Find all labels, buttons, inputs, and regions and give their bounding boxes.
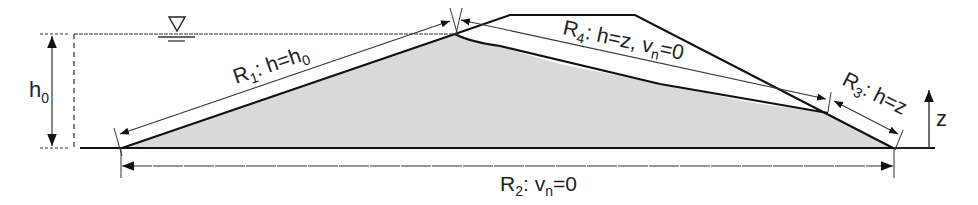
r4-label: R4: h=z, vn=0 <box>560 15 686 67</box>
r1-label: R1: h=h0 <box>230 41 313 92</box>
z-axis-label: z <box>936 106 947 131</box>
r3-label: R3: h=z <box>837 67 911 122</box>
saturated-region <box>122 34 893 148</box>
r4-tick-right <box>828 92 831 112</box>
dam-diagram: h0 R1: h=h0 R4: h=z, vn=0 R3: h=z R2: vn… <box>0 0 978 205</box>
water-level-symbol-icon <box>158 17 195 41</box>
r2-label: R2: vn=0 <box>500 172 577 199</box>
h0-label: h0 <box>29 77 49 106</box>
r4-tick-left <box>456 8 462 34</box>
diagram-stage: h0 R1: h=h0 R4: h=z, vn=0 R3: h=z R2: vn… <box>0 0 978 205</box>
